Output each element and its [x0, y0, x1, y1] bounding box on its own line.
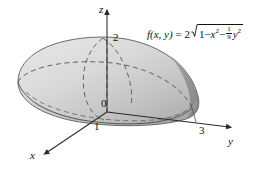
y-axis-label: y [228, 136, 233, 147]
figure-canvas: z y x 2 0 1 3 f(x, y) = 21−x2−19y2 [0, 0, 270, 170]
z-intercept-tick-label: 2 [113, 32, 119, 43]
origin-tick-label: 0 [101, 98, 107, 109]
formula-radical: 1−x2−19y2 [191, 24, 243, 42]
z-axis-label: z [99, 4, 103, 15]
formula-fraction-denominator: 9 [226, 34, 232, 41]
formula-minus-two: − [219, 28, 225, 40]
formula-coefficient: 2 [184, 28, 190, 40]
formula-y-exponent: 2 [238, 27, 242, 35]
function-formula: f(x, y) = 21−x2−19y2 [147, 24, 243, 42]
formula-arguments: (x, y) [150, 28, 173, 40]
formula-radicand: 1−x2−19y2 [198, 24, 243, 42]
formula-fraction: 19 [226, 26, 232, 42]
formula-equals: = [175, 28, 181, 40]
x-intercept-tick-label: 1 [94, 121, 100, 132]
y-intercept-tick-label: 3 [199, 125, 205, 136]
x-axis-label: x [30, 150, 35, 161]
radical-sign-icon [191, 24, 198, 37]
